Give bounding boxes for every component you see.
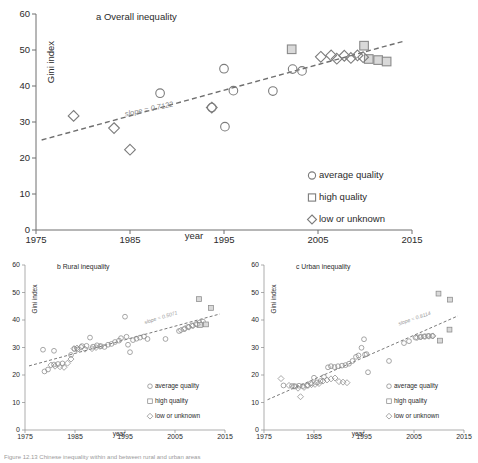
figure-caption: Figure 12.13 Chinese inequality within a… bbox=[4, 454, 474, 460]
chart-panel-urban-inequality: 010203040506019751985199520052015Gini in… bbox=[239, 255, 478, 455]
data-point bbox=[350, 359, 355, 364]
data-point bbox=[128, 350, 133, 355]
data-point bbox=[123, 314, 128, 319]
legend-marker-square bbox=[308, 194, 315, 201]
data-point bbox=[407, 339, 412, 344]
data-point bbox=[68, 111, 79, 122]
x-tick-label: 1975 bbox=[256, 433, 272, 440]
data-point bbox=[221, 122, 230, 131]
legend-marker-circle bbox=[387, 384, 392, 389]
data-point bbox=[281, 383, 286, 388]
data-point bbox=[364, 55, 373, 64]
legend-marker-square bbox=[148, 399, 153, 404]
legend-label: low or unknown bbox=[394, 412, 440, 419]
data-point bbox=[88, 335, 93, 340]
slope-annotation: slope = 0.7122 bbox=[124, 99, 175, 118]
data-point bbox=[198, 323, 203, 328]
legend-marker-circle bbox=[308, 172, 315, 179]
panel-a-plot: 010203040506019751985199520052015Gini in… bbox=[0, 0, 430, 250]
data-point bbox=[126, 342, 131, 347]
data-point bbox=[288, 65, 297, 74]
data-point bbox=[125, 144, 136, 155]
legend-marker-diamond bbox=[386, 413, 392, 419]
x-tick-label: 2005 bbox=[307, 234, 328, 245]
y-tick-label: 50 bbox=[12, 289, 20, 296]
chart-panel-overall-inequality: 010203040506019751985199520052015Gini in… bbox=[0, 0, 430, 250]
data-point bbox=[269, 87, 278, 96]
legend-label: low or unknown bbox=[319, 213, 385, 224]
data-point bbox=[447, 327, 452, 332]
data-point bbox=[298, 394, 304, 400]
y-tick-label: 60 bbox=[19, 8, 30, 19]
legend-label: high quality bbox=[319, 191, 367, 202]
x-tick-label: 1985 bbox=[306, 433, 322, 440]
y-tick-label: 30 bbox=[12, 344, 20, 351]
data-point bbox=[448, 297, 453, 302]
y-tick-label: 40 bbox=[251, 316, 259, 323]
data-point bbox=[312, 375, 317, 380]
data-point bbox=[52, 348, 57, 353]
y-tick-label: 20 bbox=[12, 371, 20, 378]
data-point bbox=[387, 359, 392, 364]
data-point bbox=[315, 51, 326, 62]
trendline bbox=[29, 314, 220, 366]
y-tick-label: 10 bbox=[12, 399, 20, 406]
legend-marker-diamond bbox=[308, 215, 317, 224]
panel-title: a Overall inequality bbox=[96, 11, 177, 22]
legend-marker-diamond bbox=[147, 413, 153, 419]
legend-marker-square bbox=[387, 399, 392, 404]
data-point bbox=[41, 347, 46, 352]
x-axis-title: year bbox=[352, 430, 365, 438]
data-point bbox=[359, 345, 364, 350]
y-axis-title: Gini index bbox=[45, 41, 56, 83]
data-point bbox=[60, 361, 65, 366]
legend-marker-circle bbox=[148, 384, 153, 389]
data-point bbox=[298, 67, 307, 76]
y-tick-label: 40 bbox=[12, 316, 20, 323]
data-point bbox=[402, 341, 407, 346]
y-tick-label: 30 bbox=[251, 344, 259, 351]
y-tick-label: 20 bbox=[251, 371, 259, 378]
y-axis-title: Gini index bbox=[31, 284, 38, 314]
legend-label: average quality bbox=[394, 382, 439, 390]
data-point bbox=[163, 337, 168, 342]
x-tick-label: 1995 bbox=[213, 234, 234, 245]
x-tick-label: 1985 bbox=[119, 234, 140, 245]
data-point bbox=[204, 322, 209, 327]
y-tick-label: 60 bbox=[251, 261, 259, 268]
y-tick-label: 10 bbox=[251, 399, 259, 406]
x-tick-label: 2015 bbox=[401, 234, 422, 245]
panel-c-plot: 010203040506019751985199520052015Gini in… bbox=[239, 255, 478, 455]
data-point bbox=[382, 57, 391, 66]
data-point bbox=[374, 56, 383, 65]
y-tick-label: 40 bbox=[19, 80, 30, 91]
y-tick-label: 30 bbox=[19, 116, 30, 127]
x-axis-title: year bbox=[113, 430, 126, 438]
legend-label: average quality bbox=[155, 382, 200, 390]
data-point bbox=[366, 370, 371, 375]
y-tick-label: 20 bbox=[19, 152, 30, 163]
data-point bbox=[82, 346, 88, 352]
y-tick-label: 50 bbox=[251, 289, 259, 296]
x-tick-label: 2015 bbox=[456, 433, 472, 440]
y-axis-title: Gini index bbox=[270, 284, 277, 314]
legend-label: low or unknown bbox=[155, 412, 201, 419]
panel-title: b Rural inequality bbox=[57, 263, 110, 271]
data-point bbox=[145, 337, 150, 342]
data-point bbox=[329, 364, 334, 369]
x-tick-label: 1975 bbox=[25, 234, 46, 245]
legend-label: average quality bbox=[319, 169, 384, 180]
y-tick-label: 60 bbox=[12, 261, 20, 268]
panel-title: c Urban inequality bbox=[296, 263, 351, 271]
chart-panel-rural-inequality: 010203040506019751985199520052015Gini in… bbox=[0, 255, 239, 455]
slope-annotation: slope = 0.5071 bbox=[144, 309, 179, 325]
legend-label: high quality bbox=[394, 397, 428, 405]
data-point bbox=[286, 382, 292, 388]
x-tick-label: 1985 bbox=[67, 433, 83, 440]
data-point bbox=[197, 297, 202, 302]
data-point bbox=[326, 365, 331, 370]
data-point bbox=[156, 89, 165, 98]
x-tick-label: 2005 bbox=[406, 433, 422, 440]
data-point bbox=[287, 45, 296, 54]
x-axis-title: year bbox=[185, 230, 203, 241]
